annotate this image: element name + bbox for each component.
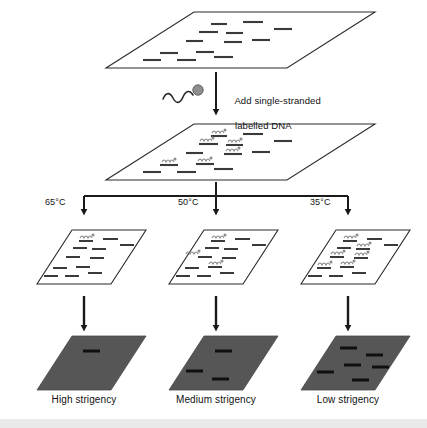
result-label-low: Low strigency xyxy=(288,394,408,406)
labelled-dna-probe-icon xyxy=(163,85,203,103)
step-label-add-probe: Add single-stranded labelled DNA xyxy=(224,82,321,145)
step-label-line1: Add single-stranded xyxy=(234,95,320,106)
temperature-label-high: 65°C xyxy=(45,196,66,208)
blot-membrane-unhybridized xyxy=(106,12,375,68)
membrane-high-strigency xyxy=(37,230,146,284)
result-label-medium: Medium strigency xyxy=(156,394,276,406)
autoradiograph-low-strigency xyxy=(301,336,410,390)
branch-connector xyxy=(84,182,348,212)
bottom-edge-strip xyxy=(0,419,427,428)
temperature-label-low: 35°C xyxy=(310,196,331,208)
membrane-medium-strigency xyxy=(169,230,278,284)
temperature-label-medium: 50°C xyxy=(178,196,199,208)
probe-label-dot xyxy=(92,234,95,237)
result-label-high: High strigency xyxy=(24,394,144,406)
autoradiograph-high-strigency xyxy=(37,336,146,390)
stringency-diagram-svg xyxy=(0,0,427,428)
membrane-low-strigency xyxy=(301,230,410,284)
step-label-line2: labelled DNA xyxy=(235,120,292,131)
diagram-canvas: Add single-stranded labelled DNA 65°C 50… xyxy=(0,0,427,428)
autoradiograph-medium-strigency xyxy=(169,336,278,390)
arrows-to-autoradiographs xyxy=(84,296,348,328)
